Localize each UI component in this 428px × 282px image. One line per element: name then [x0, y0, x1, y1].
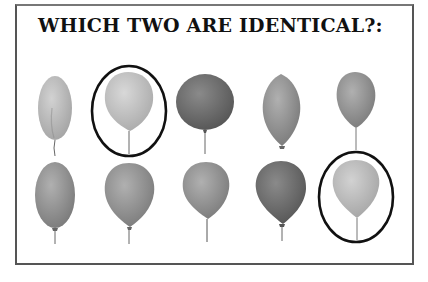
balloon-r1b4[interactable] [263, 74, 301, 149]
balloon-r1b2[interactable] [105, 72, 153, 154]
balloon-r2b5[interactable] [333, 160, 380, 240]
balloon-grid [0, 0, 428, 282]
balloon-r2b4[interactable] [256, 161, 306, 241]
balloon-r2b2[interactable] [105, 163, 155, 244]
balloon-r2b1[interactable] [35, 162, 75, 244]
balloon-r1b1[interactable] [38, 76, 72, 156]
balloon-r2b3[interactable] [183, 162, 230, 242]
balloon-r1b3[interactable] [176, 74, 234, 154]
balloon-r1b5[interactable] [337, 72, 376, 150]
